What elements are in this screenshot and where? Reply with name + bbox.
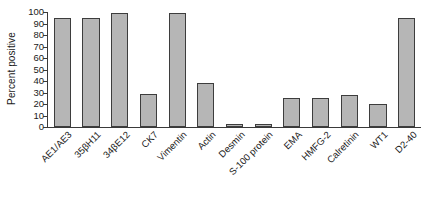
bar[interactable] — [398, 18, 415, 127]
y-axis-tick-label: 40 — [18, 76, 44, 86]
x-axis-tick-label: CK7 — [139, 129, 160, 150]
bar[interactable] — [283, 98, 300, 127]
y-axis-tick-label: 80 — [18, 30, 44, 40]
bar-slot — [220, 12, 249, 127]
bar-slot — [306, 12, 335, 127]
bar[interactable] — [369, 104, 386, 127]
x-axis-tick-labels: AE1/AE335βH1134βE12CK7VimentinActinDesmi… — [48, 129, 421, 204]
y-axis-tick-label: 30 — [18, 88, 44, 98]
y-axis-tick-label: 70 — [18, 42, 44, 52]
bar-slot — [105, 12, 134, 127]
y-axis-tick-label: 60 — [18, 53, 44, 63]
x-axis-tick-label: EMA — [281, 129, 303, 151]
x-axis-tick-label-text: EMA — [281, 129, 303, 151]
y-axis-tick-label: 90 — [18, 19, 44, 29]
y-axis-tick-label: 20 — [18, 99, 44, 109]
x-axis-tick-label-text: D2-40 — [392, 129, 418, 155]
y-axis-tick-label: 10 — [18, 111, 44, 121]
bar-chart-figure: Percent positive 0102030405060708090100 … — [0, 0, 429, 204]
x-axis-tick-label-text: Actin — [195, 129, 218, 152]
bar[interactable] — [169, 13, 186, 127]
x-axis-tick-label: 34βE12 — [100, 129, 131, 160]
bar[interactable] — [255, 124, 272, 127]
bar[interactable] — [197, 83, 214, 127]
y-axis-title-text: Percent positive — [6, 32, 17, 105]
x-axis-tick-label-text: 35βH11 — [72, 129, 103, 160]
bar[interactable] — [226, 124, 243, 127]
bar-slot — [134, 12, 163, 127]
x-axis-tick-label: Actin — [195, 129, 218, 152]
y-axis-tick-label: 0 — [18, 122, 44, 132]
bar-slot — [163, 12, 192, 127]
x-axis-line — [47, 127, 421, 128]
bar[interactable] — [312, 98, 329, 127]
x-axis-tick-label-text: WT1 — [368, 129, 390, 151]
bar-slot — [48, 12, 77, 127]
y-axis-tick-labels: 0102030405060708090100 — [18, 12, 44, 127]
x-axis-tick-label: D2-40 — [392, 129, 418, 155]
x-axis-tick-label-text: Vimentin — [155, 129, 189, 163]
bar-slot — [392, 12, 421, 127]
bar[interactable] — [140, 94, 157, 127]
x-axis-tick-label-text: AE1/AE3 — [39, 129, 74, 164]
bar[interactable] — [341, 95, 358, 127]
bar-slot — [191, 12, 220, 127]
x-axis-tick-label-text: CK7 — [139, 129, 160, 150]
x-axis-tick-label-text: 34βE12 — [100, 129, 131, 160]
x-axis-tick-label: AE1/AE3 — [39, 129, 74, 164]
bar[interactable] — [54, 18, 71, 127]
bar-slot — [278, 12, 307, 127]
bar-slot — [77, 12, 106, 127]
plot-area — [48, 12, 421, 127]
bar-slot — [364, 12, 393, 127]
x-axis-tick-label: WT1 — [368, 129, 390, 151]
y-axis-tick-label: 100 — [18, 7, 44, 16]
bar[interactable] — [82, 18, 99, 127]
x-axis-tick-label: 35βH11 — [72, 129, 103, 160]
bar[interactable] — [111, 13, 128, 127]
bar-slot — [249, 12, 278, 127]
bar-slot — [335, 12, 364, 127]
y-axis-tick-label: 50 — [18, 65, 44, 75]
x-axis-tick-label: Vimentin — [155, 129, 189, 163]
